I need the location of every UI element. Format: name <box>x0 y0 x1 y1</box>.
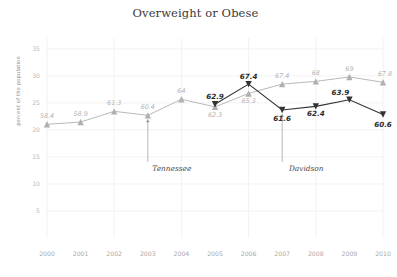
data-label: 69 <box>345 65 353 73</box>
data-point-marker <box>178 96 184 102</box>
series-annotation-tennessee: Tennessee <box>152 164 191 173</box>
data-label: 62.4 <box>307 109 325 118</box>
data-point-marker <box>245 90 251 96</box>
series-annotation-davidson: Davidson <box>289 164 324 173</box>
data-label: 67.4 <box>275 72 289 80</box>
series-line-davidson <box>215 84 383 114</box>
gridlines <box>47 38 383 238</box>
data-label: 58.9 <box>73 110 87 118</box>
data-label: 61.3 <box>107 99 121 107</box>
data-label: 62.9 <box>206 92 224 101</box>
data-label: 67.8 <box>378 70 392 78</box>
data-label: 63.9 <box>332 88 350 97</box>
data-label: 68 <box>312 69 320 77</box>
data-label: 60.6 <box>374 120 392 129</box>
data-point-marker <box>380 111 386 117</box>
data-label: 64 <box>177 87 185 95</box>
data-label: 58.4 <box>40 112 54 120</box>
data-label: 65.3 <box>241 97 255 105</box>
data-label: 60.4 <box>141 103 155 111</box>
data-label: 61.6 <box>273 114 291 123</box>
data-label: 67.4 <box>240 72 258 81</box>
annotation-leader-lines <box>146 114 284 162</box>
data-label: 62.3 <box>208 111 222 119</box>
leader-arrowhead <box>146 119 150 122</box>
